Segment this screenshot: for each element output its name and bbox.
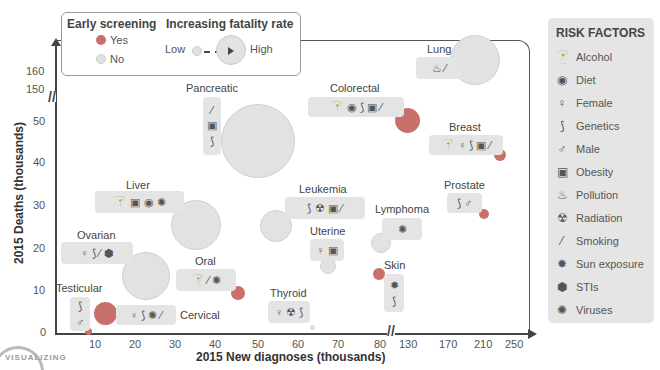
smoking-icon: ⁄	[554, 234, 570, 248]
obesity-icon: ▣	[554, 165, 570, 179]
risk-label: Pollution	[576, 189, 618, 201]
genetics-icon: ⟆	[210, 135, 214, 148]
y-axis-break: //	[48, 92, 56, 102]
risk-factors-legend: RISK FACTORS 🍸Alcohol ◉Diet ♀Female ⟆Gen…	[548, 18, 654, 323]
y-tick: 20	[33, 242, 45, 254]
bubble-chart: // // 160 150 50 40 30 20 10 0 10 20 30 …	[0, 0, 660, 370]
label-cervical: Cervical	[180, 309, 220, 321]
no-dot-icon	[96, 54, 106, 64]
risk-item-obesity: ▣Obesity	[554, 165, 613, 179]
risk-label: Radiation	[576, 212, 622, 224]
screening-legend-title: Early screening	[67, 17, 156, 31]
risk-item-pollution: ♨Pollution	[554, 188, 618, 202]
x-tick: 20	[129, 338, 141, 350]
x-tick: 170	[439, 338, 457, 350]
risk-item-male: ♂Male	[554, 142, 600, 156]
label-uterine: Uterine	[310, 225, 345, 237]
pollution-icon: ♨	[554, 188, 570, 202]
badge-lung: ♨ ⁄	[416, 57, 462, 79]
label-liver: Liver	[126, 179, 150, 191]
virus-icon: ✺	[554, 303, 570, 317]
alcohol-icon: 🍸	[554, 50, 570, 64]
sti-icon: ⬢	[554, 280, 570, 294]
legend-no: No	[96, 53, 124, 65]
y-tick: 40	[33, 156, 45, 168]
legend-yes-label: Yes	[110, 34, 128, 46]
female-icon: ♀	[554, 96, 570, 110]
smoking-icon: ⁄	[211, 104, 213, 116]
logo-text: VISUALIZING	[5, 353, 67, 362]
risk-label: STIs	[576, 281, 599, 293]
x-tick: 60	[292, 338, 304, 350]
risk-item-diet: ◉Diet	[554, 73, 596, 87]
badge-liver: 🍸 ▣ ◉ ✺	[95, 191, 184, 213]
risk-label: Alcohol	[576, 51, 612, 63]
x-tick: 80	[374, 338, 386, 350]
y-tick: 0	[40, 326, 46, 338]
badge-prostate: ⟆ ♂	[447, 193, 482, 213]
risk-label: Obesity	[576, 166, 613, 178]
bubble-thyroid	[310, 325, 315, 330]
genetics-icon: ⟆	[78, 300, 82, 313]
risk-factors-title: RISK FACTORS	[556, 26, 645, 40]
x-tick: 250	[505, 338, 523, 350]
badge-breast: 🍸 ♀ ⟆ ▣ ⁄	[429, 135, 503, 155]
legend-no-label: No	[110, 53, 124, 65]
risk-item-genetics: ⟆Genetics	[554, 119, 619, 133]
label-pancreatic: Pancreatic	[186, 82, 238, 94]
badge-cervical: ♀ ⟆ ✺ ⁄	[116, 305, 176, 325]
risk-item-radiation: ☢Radiation	[554, 211, 622, 225]
x-axis-break: //	[387, 324, 395, 338]
badge-ovarian: ♀ ⟆ ⁄ ⬢	[61, 242, 133, 264]
risk-item-sun-exposure: ✹Sun exposure	[554, 257, 644, 271]
fatality-legend-title: Increasing fatality rate	[166, 17, 293, 31]
label-thyroid: Thyroid	[270, 287, 307, 299]
male-icon: ♂	[76, 316, 84, 328]
label-colorectal: Colorectal	[330, 82, 380, 94]
risk-label: Female	[576, 97, 613, 109]
badge-skin: ✹ ⟆	[384, 274, 404, 312]
x-tick: 130	[399, 338, 417, 350]
risk-item-stis: ⬢STIs	[554, 280, 599, 294]
badge-pancreatic: ⁄ ▣ ⟆	[203, 97, 221, 155]
label-testicular: Testicular	[56, 282, 102, 294]
yes-dot-icon	[96, 35, 106, 45]
legend-low: Low	[165, 43, 185, 55]
y-tick: 160	[26, 65, 44, 77]
y-tick: 10	[33, 284, 45, 296]
x-tick: 10	[89, 338, 101, 350]
label-ovarian: Ovarian	[77, 229, 116, 241]
radiation-icon: ☢	[554, 211, 570, 225]
risk-item-alcohol: 🍸Alcohol	[554, 50, 612, 64]
legend-high: High	[250, 43, 273, 55]
risk-item-female: ♀Female	[554, 96, 613, 110]
genetics-icon: ⟆	[392, 295, 396, 308]
x-axis-arrow	[528, 329, 537, 339]
x-tick: 70	[332, 338, 344, 350]
bubble-pancreatic	[221, 104, 295, 178]
risk-item-viruses: ✺Viruses	[554, 303, 612, 317]
legend-yes: Yes	[96, 34, 128, 46]
label-leukemia: Leukemia	[299, 183, 347, 195]
label-prostate: Prostate	[444, 179, 485, 191]
risk-label: Diet	[576, 74, 596, 86]
diet-icon: ◉	[554, 73, 570, 87]
x-tick: 50	[252, 338, 264, 350]
encoding-legend: Early screening Yes No Increasing fatali…	[61, 12, 301, 76]
y-tick: 50	[33, 115, 45, 127]
bubble-cervical	[94, 302, 117, 325]
badge-leukemia: ⟆ ☢ ▣ ⁄	[285, 197, 365, 219]
sun-icon: ✹	[554, 257, 570, 271]
genetics-icon: ⟆	[554, 119, 570, 133]
risk-label: Smoking	[576, 235, 619, 247]
badge-thyroid: ♀ ☢ ⟆	[268, 301, 310, 323]
x-axis	[55, 333, 530, 335]
badge-lymphoma: ✺	[382, 218, 422, 240]
label-skin: Skin	[384, 259, 405, 271]
risk-label: Sun exposure	[576, 258, 644, 270]
badge-colorectal: 🍸 ◉ ⟆ ▣ ⁄	[308, 97, 404, 117]
y-axis-title: 2015 Deaths (thousands)	[12, 122, 26, 264]
label-lymphoma: Lymphoma	[375, 203, 429, 215]
badge-uterine: ♀ ▣	[310, 239, 344, 261]
badge-testicular: ⟆ ♂	[70, 297, 90, 331]
